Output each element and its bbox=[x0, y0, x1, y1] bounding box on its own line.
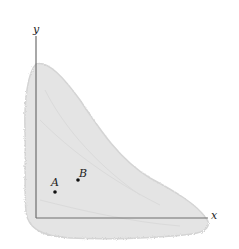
diagram-canvas: y x A B bbox=[0, 0, 239, 249]
x-axis-label: x bbox=[211, 210, 217, 221]
y-axis-label: y bbox=[33, 24, 39, 35]
planar-region bbox=[25, 63, 208, 238]
point-a bbox=[53, 190, 57, 194]
point-a-label: A bbox=[51, 177, 59, 188]
point-b-label: B bbox=[79, 168, 87, 179]
diagram-svg bbox=[0, 0, 239, 249]
